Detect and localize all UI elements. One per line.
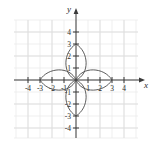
x-tick-label: 4 bbox=[122, 84, 126, 93]
figure-container: -4 -3 -2 -1 1 2 3 4 -4 -3 -2 -1 1 2 3 4 … bbox=[0, 0, 152, 152]
x-tick-label: -3 bbox=[37, 84, 43, 93]
x-axis-label: x bbox=[143, 80, 148, 90]
y-tick-label: 4 bbox=[67, 28, 71, 37]
rose-curve-plot: -4 -3 -2 -1 1 2 3 4 -4 -3 -2 -1 1 2 3 4 … bbox=[0, 0, 152, 152]
x-tick-label: 1 bbox=[86, 84, 90, 93]
x-tick-label: -4 bbox=[25, 84, 31, 93]
y-axis-label: y bbox=[66, 4, 71, 14]
y-tick-label: -3 bbox=[65, 112, 71, 121]
y-tick-label: 3 bbox=[67, 40, 71, 49]
y-tick-label: -4 bbox=[65, 124, 71, 133]
x-tick-label: 3 bbox=[110, 84, 114, 93]
